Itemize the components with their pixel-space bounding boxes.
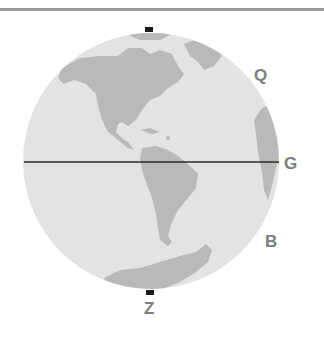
- label-b: B: [265, 233, 277, 250]
- label-g: G: [284, 155, 297, 172]
- globe-diagram: [0, 0, 324, 338]
- label-q: Q: [254, 67, 267, 84]
- label-z: Z: [144, 300, 154, 317]
- north-pole-marker: [145, 27, 153, 32]
- south-pole-marker: [146, 290, 154, 295]
